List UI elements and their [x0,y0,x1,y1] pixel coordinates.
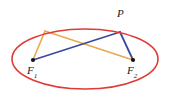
ellipse-figure: P F1 F2 [0,0,169,102]
point-label-f2-text: F [127,64,134,76]
point-label-p: P [117,8,124,19]
point-label-f1-text: F [27,64,34,76]
point-label-p-text: P [117,7,124,19]
focus-point-f1-dot [31,58,35,62]
segment-p-to-f1 [33,32,120,60]
point-label-f2: F2 [127,65,137,79]
focus-point-f2-dot [131,58,135,62]
point-label-f1-subscript: 1 [34,72,38,80]
segment-upper-left-to-f2 [45,31,133,60]
point-label-f1: F1 [27,65,37,79]
point-label-f2-subscript: 2 [134,72,138,80]
figure-canvas [0,0,169,102]
